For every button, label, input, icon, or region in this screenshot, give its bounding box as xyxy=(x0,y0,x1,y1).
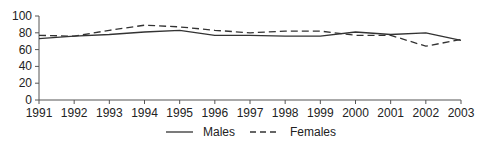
y-tick-label: 100 xyxy=(12,9,32,23)
legend-females-label: Females xyxy=(290,125,336,139)
y-tick-label: 40 xyxy=(19,59,33,73)
line-chart: 0204060801001991199219931994199519961997… xyxy=(0,0,483,146)
x-tick-label: 1991 xyxy=(26,106,53,120)
x-tick-label: 2000 xyxy=(342,106,369,120)
x-tick-label: 1993 xyxy=(96,106,123,120)
x-tick-label: 2003 xyxy=(448,106,475,120)
y-tick-label: 60 xyxy=(19,43,33,57)
x-tick-label: 1997 xyxy=(237,106,264,120)
legend-males-label: Males xyxy=(203,125,235,139)
x-tick-label: 1995 xyxy=(166,106,193,120)
y-tick-label: 0 xyxy=(25,93,32,107)
y-tick-label: 80 xyxy=(19,26,33,40)
x-tick-label: 1998 xyxy=(272,106,299,120)
x-tick-label: 1994 xyxy=(131,106,158,120)
axes: 0204060801001991199219931994199519961997… xyxy=(12,9,475,120)
series-line-males xyxy=(39,30,461,40)
chart-canvas: 0204060801001991199219931994199519961997… xyxy=(0,0,483,146)
x-tick-label: 2002 xyxy=(412,106,439,120)
x-tick-label: 2001 xyxy=(377,106,404,120)
x-tick-label: 1996 xyxy=(201,106,228,120)
x-tick-label: 1999 xyxy=(307,106,334,120)
legend: Males Females xyxy=(166,125,336,139)
x-tick-label: 1992 xyxy=(61,106,88,120)
y-tick-label: 20 xyxy=(19,76,33,90)
series-layer xyxy=(39,25,461,46)
